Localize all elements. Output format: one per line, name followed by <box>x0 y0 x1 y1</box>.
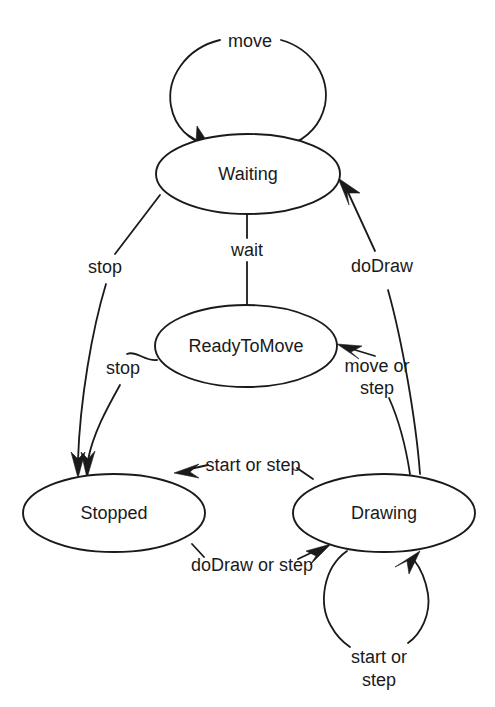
transition-start-or-step[interactable]: start or step <box>174 455 313 479</box>
transition-dodraw-label: doDraw <box>351 256 414 276</box>
transition-stop-from-ready-path-lower <box>88 385 120 460</box>
transition-stop-from-ready-arrowhead <box>81 451 95 478</box>
state-node-readytomove[interactable]: ReadyToMove <box>155 305 337 387</box>
transition-move-or-step-path-lower <box>389 398 410 474</box>
transition-dodraw-path-upper <box>347 190 375 251</box>
transition-dodraw[interactable]: doDraw <box>338 178 420 474</box>
transition-stop-from-waiting-label: stop <box>88 257 122 277</box>
state-label-waiting: Waiting <box>218 164 277 184</box>
state-node-waiting[interactable]: Waiting <box>156 134 340 214</box>
transition-stop-from-waiting[interactable]: stop <box>71 195 160 478</box>
transition-drawing-self-loop[interactable]: start or step <box>324 551 429 690</box>
transition-stop-from-waiting-path-lower <box>78 284 106 460</box>
state-diagram-canvas: move wait stop stop doDraw <box>0 0 495 707</box>
transition-move-path-right <box>281 40 326 146</box>
transition-stop-from-waiting-path-upper <box>115 195 160 254</box>
transition-drawing-self-loop-path-right <box>408 560 429 643</box>
transition-dodraw-or-step[interactable]: doDraw or step <box>191 544 331 575</box>
transition-move-or-step-label-line1: move or <box>344 356 409 376</box>
state-node-drawing[interactable]: Drawing <box>293 474 475 552</box>
transition-wait[interactable]: wait <box>230 214 263 306</box>
transition-dodraw-or-step-label: doDraw or step <box>191 555 313 575</box>
state-diagram: move wait stop stop doDraw <box>0 0 495 707</box>
transition-drawing-self-loop-label-line1: start or <box>351 647 407 667</box>
transition-move-or-step-label-line2: step <box>360 378 394 398</box>
transition-move-path <box>170 40 220 145</box>
transition-dodraw-arrowhead <box>338 178 360 205</box>
state-label-stopped: Stopped <box>80 503 147 523</box>
state-label-drawing: Drawing <box>351 503 417 523</box>
state-label-readytomove: ReadyToMove <box>188 336 303 356</box>
transition-wait-label: wait <box>230 240 263 260</box>
transition-move[interactable]: move <box>170 31 326 149</box>
transition-drawing-self-loop-label-line2: step <box>362 670 396 690</box>
transition-start-or-step-arrowhead <box>174 464 199 478</box>
transition-stop-from-ready-label: stop <box>106 358 140 378</box>
transition-start-or-step-label: start or step <box>205 455 300 475</box>
transition-move-or-step[interactable]: move or step <box>337 344 410 474</box>
transition-drawing-self-loop-path-left <box>324 551 350 647</box>
transition-stop-from-ready[interactable]: stop <box>81 353 157 478</box>
state-node-stopped[interactable]: Stopped <box>23 474 205 552</box>
transition-move-label: move <box>228 31 272 51</box>
